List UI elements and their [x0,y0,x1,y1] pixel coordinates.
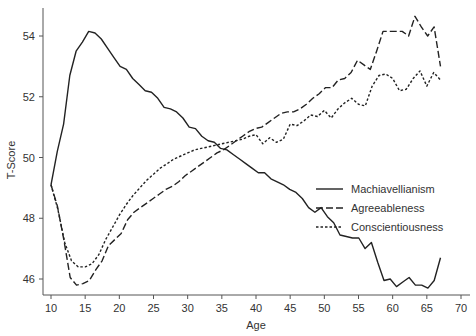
x-tick-label: 70 [455,302,467,314]
x-tick-label: 65 [421,302,433,314]
y-tick-label: 48 [23,212,35,224]
y-axis-label: T-Score [5,141,17,180]
x-tick-label: 45 [284,302,296,314]
x-tick-label: 25 [147,302,159,314]
x-tick-label: 55 [352,302,364,314]
legend-label: Machiavellianism [351,183,435,195]
x-axis-label: Age [246,319,266,331]
x-tick-label: 50 [318,302,330,314]
plot-series [51,16,441,288]
x-tick-label: 60 [387,302,399,314]
x-tick-label: 20 [113,302,125,314]
x-tick-label: 30 [182,302,194,314]
x-tick-label: 10 [45,302,57,314]
legend-label: Agreeableness [351,202,425,214]
y-tick-label: 52 [23,91,35,103]
y-tick-label: 50 [23,152,35,164]
y-tick-label: 46 [23,273,35,285]
x-tick-label: 40 [250,302,262,314]
y-tick-label: 54 [23,30,35,42]
series-line-machiavellianism [51,31,441,288]
y-axis-ticks: 4648505254 [23,30,43,285]
line-chart: 10152025303540455055606570 4648505254 Ag… [0,0,476,336]
legend-label: Conscientiousness [351,221,444,233]
series-line-agreeableness [51,16,441,285]
x-tick-label: 15 [79,302,91,314]
series-line-conscientiousness [51,71,441,267]
x-axis-ticks: 10152025303540455055606570 [45,295,467,314]
x-tick-label: 35 [216,302,228,314]
